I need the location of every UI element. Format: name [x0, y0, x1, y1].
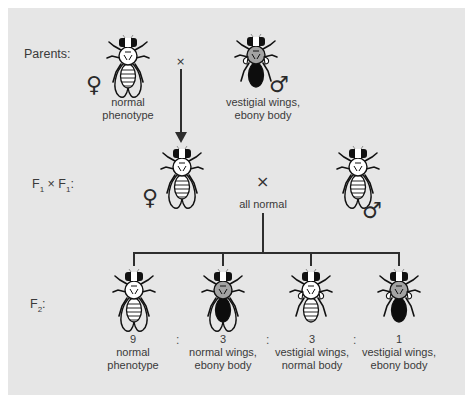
caption-line: vestigial wings, — [355, 346, 443, 359]
caption-line: phenotype — [98, 109, 158, 122]
f1-label-colon: : — [70, 177, 73, 191]
fly-normal-wings-normal-body-icon — [109, 268, 159, 334]
caption-line: vestigial wings, — [268, 346, 356, 359]
caption-line: vestigial wings, — [226, 96, 300, 109]
f2-label-base: F — [30, 297, 38, 311]
descent-arrow-line — [180, 69, 182, 137]
tree-branch-line — [133, 252, 400, 254]
f1-label-base: F — [32, 177, 40, 191]
tree-drop-line — [398, 252, 400, 266]
tree-drop-line — [133, 252, 135, 266]
tree-drop-line — [222, 252, 224, 266]
f1-row-label: F1 × F1: — [32, 177, 74, 194]
caption-line: phenotype — [98, 359, 168, 372]
ratio-separator: : — [176, 333, 179, 347]
female-symbol-icon: ♀ — [142, 187, 158, 209]
male-symbol-icon: ♂ — [269, 74, 289, 96]
f2-row-label: F2: — [30, 297, 46, 314]
fly-normal-wings-normal-body-icon — [103, 34, 153, 100]
fly-vestigial-wings-normal-body-icon — [286, 268, 336, 328]
caption-line: normal — [98, 346, 168, 359]
caption-line: normal body — [268, 359, 356, 372]
parent-female-caption: normal phenotype — [98, 96, 158, 122]
f2-offspring-caption: 1 vestigial wings, ebony body — [355, 333, 443, 372]
f2-offspring-caption: 9 normal phenotype — [98, 333, 168, 372]
fly-vestigial-wings-ebony-body-icon — [374, 268, 424, 328]
parents-row-label: Parents: — [24, 47, 71, 61]
arrow-head-icon — [175, 132, 187, 144]
f2-offspring-caption: 3 normal wings, ebony body — [183, 333, 263, 372]
tree-trunk-line — [262, 213, 264, 253]
caption-line: normal wings, — [183, 346, 263, 359]
caption-line: ebony body — [183, 359, 263, 372]
fly-normal-wings-normal-body-icon — [157, 145, 207, 211]
ratio-count: 9 — [98, 333, 168, 346]
caption-line: ebony body — [355, 359, 443, 372]
f1-caption: all normal — [236, 198, 290, 211]
f1-label-times: × F — [44, 177, 66, 191]
tree-drop-line — [310, 252, 312, 266]
female-symbol-icon: ♀ — [86, 74, 102, 96]
f2-label-colon: : — [42, 297, 45, 311]
ratio-count: 3 — [183, 333, 263, 346]
parent-male-caption: vestigial wings, ebony body — [226, 96, 300, 122]
caption-line: ebony body — [226, 109, 300, 122]
fly-normal-wings-ebony-body-icon — [198, 268, 248, 334]
ratio-count: 3 — [268, 333, 356, 346]
f2-offspring-caption: 3 vestigial wings, normal body — [268, 333, 356, 372]
parents-cross-symbol: × — [176, 55, 185, 68]
caption-line: normal — [98, 96, 158, 109]
ratio-count: 1 — [355, 333, 443, 346]
f1-cross-symbol: × — [256, 172, 269, 191]
male-symbol-icon: ♂ — [362, 200, 382, 222]
